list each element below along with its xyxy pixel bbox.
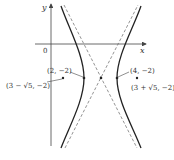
asymptote-negative: [64, 5, 137, 148]
y-axis-label: y: [41, 3, 47, 12]
vertex-right-leader: [118, 72, 129, 77]
focus-right-point: [136, 77, 138, 79]
vertex-right-label: (4, −2): [130, 67, 155, 75]
asymptote-positive: [65, 5, 138, 148]
focus-right-label: (3 + √5, −2): [131, 84, 174, 92]
hyperbola-figure: y x 0 (2, −2) (4, −2) (3 − √5, −2) (3 + …: [0, 0, 174, 160]
vertex-left-leader: [70, 72, 83, 77]
hyperbola-diagram: y x 0 (2, −2) (4, −2) (3 − √5, −2) (3 + …: [0, 0, 174, 160]
center-point: [100, 77, 103, 80]
focus-left-point: [62, 77, 64, 79]
vertex-left-label: (2, −2): [47, 67, 72, 75]
vertex-left-point: [83, 77, 86, 80]
x-axis-label: x: [140, 46, 145, 55]
focus-left-label: (3 − √5, −2): [6, 82, 50, 90]
vertex-right-point: [116, 77, 119, 80]
origin-label: 0: [43, 47, 47, 55]
hyperbola-left-branch: [61, 6, 84, 148]
